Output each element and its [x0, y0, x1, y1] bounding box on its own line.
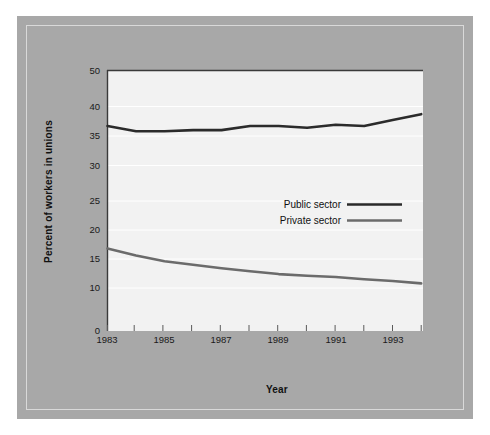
- x-tick-label-1985: 1985: [144, 334, 184, 345]
- figure-frame: 50 40 35 30 25 20 15 10 0 1983 1985 1987…: [0, 0, 490, 435]
- y-tick-label-25: 25: [74, 195, 100, 206]
- legend-label-public-sector: Public sector: [231, 199, 341, 210]
- legend-label-private-sector: Private sector: [231, 215, 341, 226]
- x-tick-label-1987: 1987: [201, 334, 241, 345]
- line-chart: 50 40 35 30 25 20 15 10 0 1983 1985 1987…: [17, 16, 473, 419]
- y-tick-label-10: 10: [74, 282, 100, 293]
- x-tick-label-1991: 1991: [316, 334, 356, 345]
- y-tick-label-20: 20: [74, 224, 100, 235]
- x-tick-label-1983: 1983: [87, 334, 127, 345]
- x-tick-label-1993: 1993: [373, 334, 413, 345]
- x-axis-title: Year: [117, 384, 437, 395]
- y-tick-label-40: 40: [74, 101, 100, 112]
- y-tick-label-30: 30: [74, 160, 100, 171]
- x-tick-label-1989: 1989: [258, 334, 298, 345]
- y-axis-title: Percent of workers in unions: [43, 117, 54, 267]
- y-tick-label-35: 35: [74, 130, 100, 141]
- y-tick-label-50: 50: [74, 65, 100, 76]
- y-tick-label-15: 15: [74, 253, 100, 264]
